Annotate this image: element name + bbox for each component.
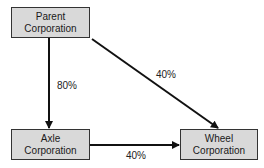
node-label-line1: Parent <box>36 11 65 23</box>
node-label-line1: Wheel <box>205 133 233 145</box>
edge-label-parent-wheel: 40% <box>156 70 176 80</box>
edge-label-parent-axle: 80% <box>57 81 77 91</box>
wheel-corporation-node: Wheel Corporation <box>180 129 258 160</box>
arrow-parent-to-wheel <box>92 39 218 128</box>
ownership-diagram: Parent Corporation Axle Corporation Whee… <box>0 0 264 168</box>
node-label-line1: Axle <box>41 133 60 145</box>
parent-corporation-node: Parent Corporation <box>11 7 90 38</box>
node-label-line2: Corporation <box>24 145 76 157</box>
node-label-line2: Corporation <box>193 145 245 157</box>
edge-label-axle-wheel: 40% <box>126 151 146 161</box>
node-label-line2: Corporation <box>24 23 76 35</box>
axle-corporation-node: Axle Corporation <box>11 129 90 160</box>
